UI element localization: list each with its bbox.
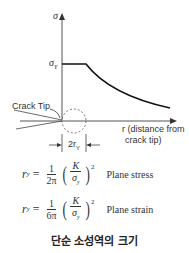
plastic-zone-size-label: 2rY [68, 139, 80, 151]
y-axis-label: σ [53, 10, 58, 21]
eq-coefficient: 12π [45, 163, 59, 186]
eq-power: 2 [91, 198, 95, 206]
zone-label-text: 2r [68, 139, 76, 149]
equation-plane-stress: ry = 12π ( Kσy ) 2 Plane stress [22, 158, 153, 190]
eq-power: 2 [91, 163, 95, 171]
crack-tip-label: Crack Tip [12, 101, 50, 111]
eq-label: Plane stress [106, 169, 153, 180]
yield-stress-label: σY [49, 57, 57, 70]
eq-ratio: Kσy [70, 160, 82, 188]
zone-sub: Y [76, 145, 80, 151]
yield-sub: Y [54, 64, 57, 70]
equation-plane-strain: ry = 16π ( Kσy ) 2 Plane strain [22, 193, 153, 225]
eq-coefficient: 16π [45, 198, 59, 221]
x-axis-label-line1: r (distance from [122, 124, 185, 134]
caption: 단순 소성역의 크기 [0, 232, 189, 248]
eq-lhs-sub: y [27, 205, 30, 213]
eq-label: Plane strain [106, 204, 153, 215]
eq-ratio: Kσy [70, 195, 82, 223]
x-axis-label-line2: crack tip) [125, 135, 162, 145]
eq-lhs-sub: y [27, 170, 30, 178]
